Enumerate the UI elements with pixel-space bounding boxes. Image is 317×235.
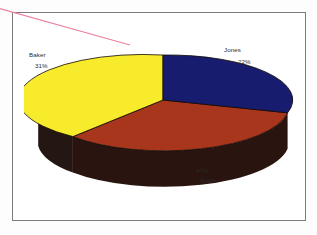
- pie-label-jones-percent: 22%: [238, 58, 251, 66]
- pie-chart: Baker 31% Jones 22% 47% Smith: [0, 0, 317, 235]
- pie-label-baker-name: Baker: [29, 51, 46, 59]
- pie-label-smith-percent: 47%: [196, 167, 209, 175]
- slide-page: Baker 31% Jones 22% 47% Smith: [0, 0, 317, 235]
- pie-label-jones-name: Jones: [224, 46, 241, 54]
- pie-label-baker-percent: 31%: [35, 62, 48, 70]
- pie-graphic: [24, 50, 296, 190]
- pie-label-smith-name: Smith: [200, 177, 216, 185]
